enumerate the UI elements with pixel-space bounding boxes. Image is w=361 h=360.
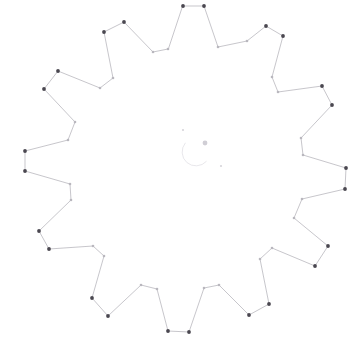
- vertex-marker-outer: [23, 169, 27, 173]
- speck-lower-right: [220, 165, 222, 167]
- vertex-marker-outer: [106, 314, 110, 318]
- vertex-marker-outer: [202, 4, 206, 8]
- vertex-marker-outer: [264, 24, 268, 28]
- vertex-marker-inner: [92, 245, 95, 248]
- vertex-marker-inner: [218, 284, 221, 287]
- speck-upper-left: [182, 129, 184, 131]
- vertex-marker-inner: [74, 121, 77, 124]
- vertex-marker-inner: [271, 76, 274, 79]
- center-blob: [203, 141, 208, 146]
- vertex-marker-outer: [47, 247, 51, 251]
- vertex-marker-outer: [42, 87, 46, 91]
- vertex-marker-inner: [70, 199, 73, 202]
- vertex-marker-inner: [67, 139, 70, 142]
- vertex-marker-outer: [344, 166, 348, 170]
- vertex-marker-outer: [187, 330, 191, 334]
- vertex-marker-inner: [99, 87, 102, 90]
- vertex-marker-outer: [247, 313, 251, 317]
- vertex-marker-outer: [37, 229, 41, 233]
- vertex-marker-outer: [166, 329, 170, 333]
- vertex-marker-inner: [293, 217, 296, 220]
- vertex-marker-inner: [271, 247, 274, 250]
- vertex-marker-inner: [69, 183, 72, 186]
- vertex-marker-inner: [103, 255, 106, 258]
- vertex-marker-inner: [277, 91, 280, 94]
- gear-polygon-plot: [0, 0, 361, 360]
- vertex-marker-inner: [112, 77, 115, 80]
- vertex-marker-outer: [320, 84, 324, 88]
- vertex-marker-inner: [300, 137, 303, 140]
- vertex-marker-outer: [330, 103, 334, 107]
- vertex-marker-outer: [56, 69, 60, 73]
- vertex-marker-inner: [259, 258, 262, 261]
- vertex-marker-outer: [23, 149, 27, 153]
- vertex-marker-inner: [302, 154, 305, 157]
- vertex-marker-outer: [90, 296, 94, 300]
- vertex-marker-outer: [281, 34, 285, 38]
- vertex-marker-outer: [267, 302, 271, 306]
- vertex-marker-inner: [140, 284, 143, 287]
- vertex-marker-outer: [313, 264, 317, 268]
- plot-background: [0, 0, 361, 360]
- plot-canvas: [0, 0, 361, 360]
- vertex-marker-inner: [301, 198, 304, 201]
- vertex-marker-outer: [326, 244, 330, 248]
- vertex-marker-inner: [217, 46, 220, 49]
- vertex-marker-inner: [156, 288, 159, 291]
- vertex-marker-outer: [122, 20, 126, 24]
- vertex-marker-inner: [203, 287, 206, 290]
- vertex-marker-inner: [167, 48, 170, 51]
- vertex-marker-inner: [246, 40, 249, 43]
- vertex-marker-outer: [181, 4, 185, 8]
- vertex-marker-outer: [343, 187, 347, 191]
- vertex-marker-inner: [152, 51, 155, 54]
- vertex-marker-outer: [102, 30, 106, 34]
